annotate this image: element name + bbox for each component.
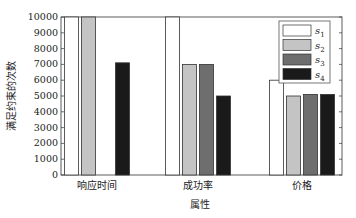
legend: s1s2s3s4 [279, 21, 330, 83]
bar-s4-0 [116, 63, 130, 175]
legend-swatch-s3 [283, 54, 311, 65]
bar-s3-2 [304, 94, 318, 175]
bar-s3-1 [200, 64, 214, 175]
legend-swatch-s2 [283, 40, 311, 51]
bar-s1-2 [270, 80, 284, 175]
y-tick-label: 3000 [34, 122, 58, 133]
x-category-label: 成功率 [183, 179, 213, 191]
legend-swatch-s1 [283, 25, 311, 36]
y-tick-label: 8000 [34, 43, 58, 54]
x-axis-label: 属性 [190, 198, 210, 210]
y-tick-label: 10000 [28, 11, 58, 22]
y-tick-label: 0 [52, 169, 58, 180]
legend-swatch-s4 [283, 69, 311, 80]
bar-s2-0 [82, 17, 96, 175]
x-category-label: 价格 [292, 179, 312, 191]
y-tick-label: 7000 [34, 58, 58, 69]
y-tick-label: 2000 [34, 137, 58, 148]
bar-s1-0 [65, 17, 79, 175]
y-axis-label: 满足约束的次数 [5, 61, 17, 131]
bar-s4-2 [321, 94, 335, 175]
y-tick-label: 9000 [34, 27, 58, 38]
bar-s2-1 [183, 64, 197, 175]
bar-s2-2 [287, 96, 301, 175]
bar-s1-1 [166, 17, 180, 175]
x-axis-category-labels: 响应时间成功率价格 [77, 179, 312, 191]
y-tick-label: 6000 [34, 74, 58, 85]
bar-s4-1 [217, 96, 231, 175]
y-tick-label: 5000 [34, 90, 58, 101]
bar-chart: 0100020003000400050006000700080009000100… [0, 0, 356, 218]
y-tick-label: 1000 [34, 153, 58, 164]
x-category-label: 响应时间 [77, 179, 117, 191]
y-tick-label: 4000 [34, 106, 58, 117]
